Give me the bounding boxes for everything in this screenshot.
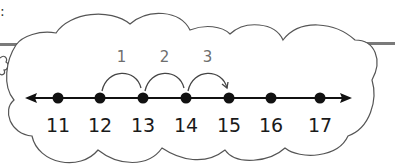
tick-dot — [138, 93, 149, 104]
thought-cloud — [7, 13, 377, 162]
tick-dot — [181, 93, 192, 104]
tick-label: 12 — [88, 114, 112, 136]
number-line-diagram: : 11121314151617 123 — [0, 0, 395, 166]
tick-label: 14 — [174, 114, 198, 136]
hop-label: 1 — [117, 48, 127, 66]
tick-dot — [266, 93, 277, 104]
tick-label: 15 — [217, 114, 241, 136]
tick-dot — [95, 93, 106, 104]
corner-mark: : — [0, 3, 5, 19]
tick-label: 17 — [308, 114, 332, 136]
hop-label: 2 — [160, 48, 170, 66]
tick-label: 16 — [259, 114, 283, 136]
tick-dot — [315, 93, 326, 104]
tick-label: 13 — [131, 114, 155, 136]
tick-label: 11 — [46, 114, 70, 136]
tick-dot — [224, 93, 235, 104]
hop-label: 3 — [203, 48, 213, 66]
tick-dot — [53, 93, 64, 104]
